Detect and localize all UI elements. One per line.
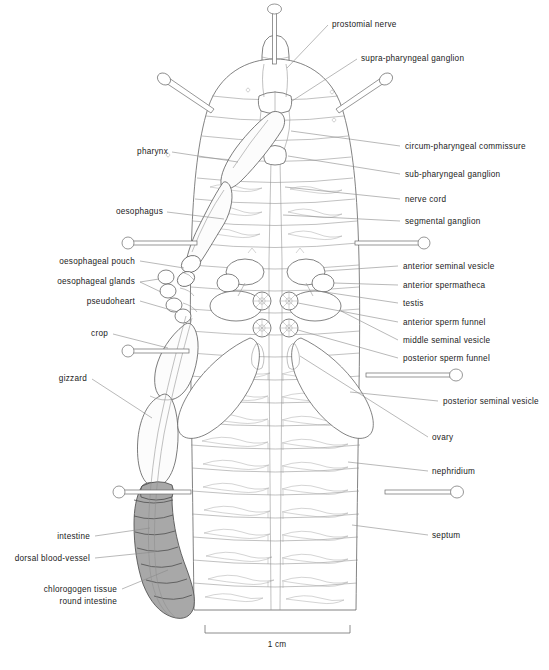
label-crop: crop: [91, 329, 108, 338]
scale-bar-group: 1 cm: [205, 625, 350, 649]
leader-septum: [352, 525, 428, 535]
label-chlorogogen-tissue-line2: round intestine: [60, 597, 118, 606]
label-segmental-ganglion: segmental ganglion: [405, 217, 481, 226]
pin-mid-left: [122, 237, 197, 249]
label-nerve-cord: nerve cord: [405, 195, 446, 204]
anatomy-drawing: prostomial nerve supra-pharyngeal gangli…: [0, 0, 549, 670]
body-wall: [190, 59, 359, 610]
pin-lower-right: [385, 486, 464, 498]
label-dorsal-blood-vessel: dorsal blood-vessel: [15, 554, 90, 563]
label-circum-pharyngeal-commissure: circum-pharyngeal commissure: [405, 142, 526, 151]
oesophageal-gland-mid: [160, 284, 176, 298]
label-middle-seminal-vesicle: middle seminal vesicle: [403, 336, 491, 345]
anterior-sperm-funnel-right: [280, 292, 298, 310]
leader-oesophageal-glands-2: [140, 282, 161, 292]
label-nephridium: nephridium: [432, 467, 475, 476]
label-posterior-seminal-vesicle: posterior seminal vesicle: [443, 397, 539, 406]
gizzard: [137, 394, 178, 486]
label-oesophageal-glands: oesophageal glands: [57, 277, 135, 286]
label-septum: septum: [432, 531, 460, 540]
label-pharynx: pharynx: [137, 147, 168, 156]
label-anterior-sperm-funnel: anterior sperm funnel: [403, 318, 486, 327]
label-supra-pharyngeal-ganglion: supra-pharyngeal ganglion: [361, 54, 464, 63]
label-oesophagus: oesophagus: [116, 207, 163, 216]
leader-gizzard: [92, 379, 152, 418]
pin-posterior-right: [366, 369, 463, 381]
posterior-sperm-funnel-left: [253, 319, 271, 337]
leader-nephridium: [348, 462, 428, 471]
leader-prostomial-nerve: [287, 25, 328, 68]
label-ovary: ovary: [432, 433, 454, 442]
intestine-group: [134, 482, 194, 619]
label-pseudoheart: pseudoheart: [87, 297, 136, 306]
anterior-spermatheca-right: [312, 274, 334, 292]
label-gizzard: gizzard: [59, 374, 87, 383]
labels-right-group: prostomial nerve supra-pharyngeal gangli…: [332, 20, 539, 540]
anterior-sperm-funnel-left: [253, 292, 271, 310]
label-anterior-seminal-vesicle: anterior seminal vesicle: [403, 262, 495, 271]
label-prostomial-nerve: prostomial nerve: [332, 20, 397, 29]
label-chlorogogen-tissue-line1: chlorogogen tissue: [44, 585, 117, 594]
anterior-spermatheca-left: [217, 274, 239, 292]
pin-mid-right: [355, 237, 430, 249]
label-testis: testis: [403, 299, 424, 308]
leader-oesophageal-pouch: [140, 261, 184, 268]
scale-bar: [205, 625, 350, 633]
label-sub-pharyngeal-ganglion: sub-pharyngeal ganglion: [405, 170, 501, 179]
earthworm-anatomy-figure: prostomial nerve supra-pharyngeal gangli…: [0, 0, 549, 670]
pin-upper-right: [336, 71, 395, 113]
oesophageal-gland-upper: [158, 270, 174, 284]
scale-bar-label: 1 cm: [268, 640, 287, 649]
pin-upper-left: [155, 71, 214, 113]
posterior-sperm-funnel-right: [280, 319, 298, 337]
label-oesophageal-pouch: oesophageal pouch: [59, 257, 135, 266]
label-intestine: intestine: [57, 532, 90, 541]
leader-oesophageal-glands: [140, 279, 159, 282]
pseudoheart-loop: [175, 309, 191, 323]
label-anterior-spermatheca: anterior spermatheca: [403, 281, 486, 290]
label-posterior-sperm-funnel: posterior sperm funnel: [403, 354, 490, 363]
leader-crop: [113, 334, 168, 348]
